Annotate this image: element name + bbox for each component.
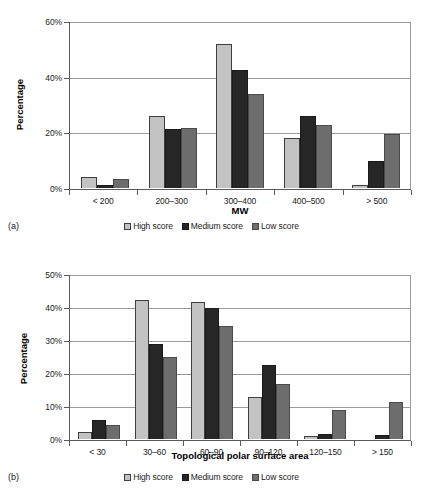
y-axis-tick-label: 0% <box>50 184 62 194</box>
bar <box>92 420 106 439</box>
bar <box>149 344 163 439</box>
bar <box>248 397 262 439</box>
y-axis-tick-label: 0% <box>50 435 62 445</box>
legend-item[interactable]: Medium score <box>182 472 243 482</box>
legend-label: High score <box>133 221 173 231</box>
bar <box>216 44 232 188</box>
y-axis-tick-label: 30% <box>45 336 62 346</box>
bar-group <box>354 275 411 439</box>
bar <box>191 302 205 439</box>
plot-area-b: < 3030–6060–9090–120120–150> 150 <box>69 275 411 441</box>
bar <box>149 116 165 188</box>
y-axis-tick-label: 50% <box>45 270 62 280</box>
bar <box>165 129 181 188</box>
bar <box>384 134 400 188</box>
x-axis-tick <box>126 441 127 446</box>
legend-label: Low score <box>261 472 299 482</box>
x-axis-tick <box>297 441 298 446</box>
legend-label: Low score <box>261 221 299 231</box>
y-axis-tick-label: 60% <box>45 17 62 27</box>
bar-group <box>297 275 354 439</box>
x-axis-tick <box>411 190 412 195</box>
legend-item[interactable]: Medium score <box>182 221 243 231</box>
x-axis-tick <box>354 441 355 446</box>
bar <box>276 384 290 439</box>
bar <box>352 185 368 188</box>
bar <box>318 434 332 439</box>
y-axis-title-b: Percentage <box>18 324 29 394</box>
x-axis-tick <box>137 190 138 195</box>
bar <box>135 300 149 439</box>
bar-group <box>241 275 298 439</box>
legend-swatch-icon <box>124 223 131 230</box>
chart-panel-b: 0%10%20%30%40%50% < 3030–6060–9090–12012… <box>0 245 423 490</box>
y-axis-tick-label: 10% <box>45 402 62 412</box>
y-axis-tick-label: 20% <box>45 369 62 379</box>
plot-frame-a <box>69 22 411 190</box>
legend-label: High score <box>133 472 173 482</box>
y-axis-tick-labels-a: 0%20%40%60% <box>30 22 62 190</box>
x-axis-tick <box>411 441 412 446</box>
y-axis-tick-labels-b: 0%10%20%30%40%50% <box>30 275 62 441</box>
bar <box>205 308 219 439</box>
legend-swatch-icon <box>182 474 189 481</box>
bar-group <box>184 275 241 439</box>
x-axis-tick <box>240 441 241 446</box>
bar <box>248 94 264 188</box>
legend-b: High scoreMedium scoreLow score <box>0 472 423 482</box>
legend-item[interactable]: Low score <box>252 472 299 482</box>
bar-groups-a <box>71 22 410 188</box>
bar <box>304 436 318 439</box>
figure-container: Percentage 0%20%40%60% < 200200–300300–4… <box>0 0 423 490</box>
bar <box>300 116 316 188</box>
bar <box>163 357 177 439</box>
bar <box>232 70 248 188</box>
plot-frame-b <box>69 275 411 441</box>
legend-a: High scoreMedium scoreLow score <box>0 221 423 231</box>
legend-swatch-icon <box>252 474 259 481</box>
bar <box>262 365 276 439</box>
bar <box>375 435 389 439</box>
x-axis-tick <box>274 190 275 195</box>
bar-group <box>128 275 185 439</box>
bar-groups-b <box>71 275 410 439</box>
bar <box>106 425 120 439</box>
bar-group <box>71 275 128 439</box>
x-axis-tick <box>69 441 70 446</box>
bar <box>332 410 346 439</box>
y-axis-tick-label: 20% <box>45 128 62 138</box>
x-axis-ticks-b <box>69 441 411 446</box>
x-axis-tick <box>343 190 344 195</box>
legend-label: Medium score <box>191 472 243 482</box>
x-axis-tick <box>183 441 184 446</box>
plot-right-border-a <box>410 22 411 189</box>
legend-item[interactable]: High score <box>124 221 173 231</box>
x-axis-tick <box>69 190 70 195</box>
bar-group <box>274 22 342 188</box>
legend-swatch-icon <box>124 474 131 481</box>
legend-item[interactable]: High score <box>124 472 173 482</box>
y-axis-tick-label: 40% <box>45 73 62 83</box>
legend-swatch-icon <box>252 223 259 230</box>
bar <box>389 402 403 439</box>
bar <box>368 161 384 188</box>
x-axis-title-a: MW <box>69 205 411 216</box>
bar <box>284 138 300 188</box>
plot-right-border-b <box>410 275 411 440</box>
legend-label: Medium score <box>191 221 243 231</box>
bar <box>316 125 332 188</box>
bar-group <box>71 22 139 188</box>
bar <box>113 179 129 188</box>
x-axis-tick <box>206 190 207 195</box>
bar <box>181 128 197 188</box>
legend-item[interactable]: Low score <box>252 221 299 231</box>
legend-swatch-icon <box>182 223 189 230</box>
chart-panel-a: Percentage 0%20%40%60% < 200200–300300–4… <box>0 0 423 245</box>
bar-group <box>342 22 410 188</box>
y-axis-tick-label: 40% <box>45 303 62 313</box>
bar <box>97 185 113 188</box>
plot-area-a: < 200200–300300–400400–500> 500 <box>69 22 411 190</box>
x-axis-title-b: Topological polar surface area <box>69 450 411 461</box>
x-axis-ticks-a <box>69 190 411 195</box>
bar <box>81 177 97 188</box>
